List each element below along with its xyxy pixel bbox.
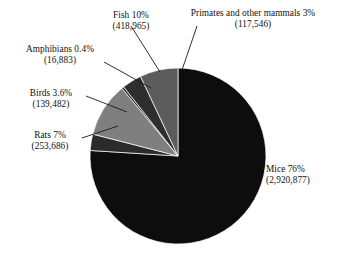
slice-label-mice-line1: Mice 76% [266, 164, 305, 174]
slice-label-amphibians: Amphibians 0.4% (16,883) [8, 44, 112, 66]
slice-label-amphibians-line1: Amphibians 0.4% [26, 44, 94, 54]
slice-label-fish-line1: Fish 10% [113, 10, 149, 20]
slice-label-primates-line2: (117,546) [170, 19, 336, 30]
leader-line-fish [131, 26, 160, 72]
slice-label-birds-line1: Birds 3.6% [30, 88, 72, 98]
slice-label-fish-line2: (418,965) [92, 21, 170, 32]
slice-label-birds: Birds 3.6% (139,482) [12, 88, 90, 110]
slice-label-amphibians-line2: (16,883) [8, 55, 112, 66]
slice-label-birds-line2: (139,482) [12, 99, 90, 110]
slice-label-mice: Mice 76% (2,920,877) [266, 164, 336, 186]
leader-line-primates [182, 26, 197, 70]
slice-label-rats-line1: Rats 7% [34, 130, 66, 140]
pie-slice-group [90, 68, 266, 244]
slice-label-fish: Fish 10% (418,965) [92, 10, 170, 32]
pie-chart-figure: Fish 10% (418,965) Primates and other ma… [0, 0, 337, 268]
slice-label-mice-line2: (2,920,877) [266, 175, 336, 186]
slice-label-primates-line1: Primates and other mammals 3% [191, 8, 315, 18]
slice-label-primates: Primates and other mammals 3% (117,546) [170, 8, 336, 30]
slice-label-rats-line2: (253,686) [14, 141, 86, 152]
slice-label-rats: Rats 7% (253,686) [14, 130, 86, 152]
